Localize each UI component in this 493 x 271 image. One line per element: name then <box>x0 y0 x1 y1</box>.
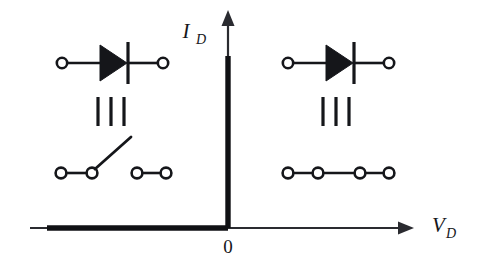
left-diode-symbol <box>57 42 168 84</box>
closed-switch-node-3 <box>355 168 366 179</box>
left-wire-segment <box>132 168 172 179</box>
right-triple-bar-equivalence-icon <box>323 97 349 126</box>
y-axis-arrowhead <box>222 10 235 26</box>
right-diode-symbol <box>283 42 394 84</box>
left-triple-bar-equivalence-icon <box>98 97 124 126</box>
left-diode-triangle-icon <box>100 45 127 81</box>
x-axis-arrowhead <box>398 222 414 235</box>
left-segment-left-node <box>132 168 143 179</box>
x-axis-label-subscript: D <box>445 226 456 241</box>
closed-switch-node-4 <box>384 168 395 179</box>
left-diode-right-terminal <box>158 58 168 68</box>
open-switch-left-terminal <box>56 168 67 179</box>
axes-group: I D V D 0 <box>30 10 456 257</box>
right-diode-left-terminal <box>283 58 293 68</box>
origin-label: 0 <box>223 236 233 257</box>
right-diode-right-terminal <box>384 58 394 68</box>
left-segment-right-node <box>161 168 172 179</box>
closed-switch-node-2 <box>313 168 324 179</box>
y-axis-label-subscript: D <box>195 32 206 47</box>
y-axis-label: I <box>182 19 191 43</box>
left-diode-left-terminal <box>57 58 67 68</box>
x-axis-label: V <box>432 213 447 237</box>
left-open-switch-symbol <box>56 137 131 178</box>
right-closed-switch-symbol <box>283 168 395 179</box>
left-model-group <box>56 42 172 178</box>
right-diode-triangle-icon <box>326 45 353 81</box>
closed-switch-node-1 <box>283 168 294 179</box>
right-model-group <box>283 42 395 178</box>
diode-characteristic-figure: I D V D 0 <box>0 0 493 271</box>
open-switch-blade <box>95 137 131 169</box>
